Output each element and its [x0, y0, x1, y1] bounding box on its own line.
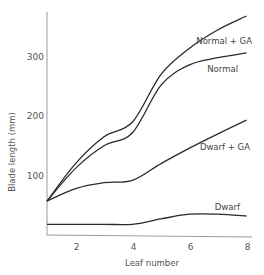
- y-tick-label: 300: [27, 52, 44, 62]
- y-tick-labels: 100200300: [27, 52, 44, 181]
- series-label: Dwarf + GA: [200, 142, 250, 152]
- y-tick-label: 100: [27, 171, 44, 181]
- series-line-dwarf: [47, 214, 247, 225]
- x-tick-label: 2: [74, 242, 80, 252]
- x-axis: [47, 235, 252, 237]
- y-tick-label: 200: [27, 111, 44, 121]
- x-axis-title: Leaf number: [125, 258, 179, 268]
- x-tick-labels: 2468: [74, 242, 251, 252]
- series-line-normal: [47, 53, 247, 201]
- series-label: Normal + GA: [196, 36, 252, 46]
- series-lines: [47, 16, 247, 225]
- line-chart: 100200300 2468 Normal + GANormalDwarf + …: [0, 0, 264, 275]
- series-label: Dwarf: [215, 202, 241, 212]
- series-label: Normal: [207, 64, 238, 74]
- series-labels: Normal + GANormalDwarf + GADwarf: [196, 36, 252, 212]
- y-axis-title: Blade length (mm): [7, 112, 17, 192]
- x-tick-label: 4: [131, 242, 137, 252]
- x-tick-label: 8: [245, 242, 251, 252]
- x-tick-label: 6: [188, 242, 194, 252]
- series-line-dwarf-ga: [47, 120, 247, 201]
